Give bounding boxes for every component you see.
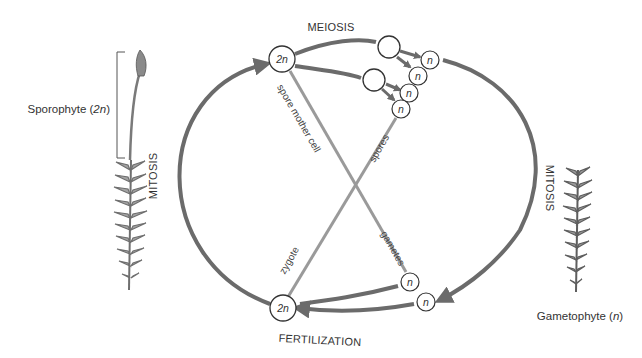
meiosis-arc-lower xyxy=(295,66,361,78)
svg-text:2n: 2n xyxy=(276,302,289,314)
cell-gamete-1: n xyxy=(401,273,419,291)
cycle-arc-left xyxy=(179,64,270,304)
gametophyte-illustration xyxy=(563,167,592,292)
fertilization-label: FERTILIZATION xyxy=(278,332,361,348)
gametophyte-label: Gametophyte (n) xyxy=(537,310,623,322)
cell-haploid-3: n xyxy=(400,84,418,102)
meiosis-label: MEIOSIS xyxy=(307,21,354,33)
spores-label: spores xyxy=(367,133,392,164)
mitosis-left-label: MITOSIS xyxy=(147,153,159,199)
svg-text:n: n xyxy=(398,103,404,115)
cell-haploid-2: n xyxy=(409,67,427,85)
cell-haploid-spore: n xyxy=(392,100,410,118)
gametes-label: gametes xyxy=(379,229,408,268)
svg-text:n: n xyxy=(406,87,412,99)
meiosis-branch-3 xyxy=(386,84,400,90)
mitosis-right-label: MITOSIS xyxy=(544,165,556,211)
sporophyte-bracket xyxy=(117,52,125,158)
sporophyte-illustration xyxy=(114,50,147,290)
fertilization-arrow-1 xyxy=(300,286,398,304)
meiosis-branch-2 xyxy=(397,57,410,67)
cell-zygote: 2n xyxy=(270,295,296,321)
svg-text:n: n xyxy=(427,54,433,66)
cell-meiosis-empty-1 xyxy=(378,36,400,58)
meiosis-branch-1 xyxy=(400,51,420,57)
life-cycle-diagram: 2n n n n n n n 2n MEIOSIS FERTILIZATION … xyxy=(0,0,642,358)
cell-haploid-1: n xyxy=(421,51,439,69)
svg-text:n: n xyxy=(423,296,429,308)
cell-meiosis-empty-2 xyxy=(363,69,385,91)
svg-text:n: n xyxy=(407,276,413,288)
svg-text:n: n xyxy=(415,70,421,82)
fertilization-arrow-2 xyxy=(298,304,414,311)
svg-text:2n: 2n xyxy=(275,53,288,65)
sporophyte-label: Sporophyte (2n) xyxy=(28,103,111,115)
zygote-label: zygote xyxy=(277,244,301,275)
cell-gamete-2: n xyxy=(417,293,435,311)
cell-top-diploid: 2n xyxy=(269,46,295,72)
meiosis-branch-4 xyxy=(382,89,394,100)
